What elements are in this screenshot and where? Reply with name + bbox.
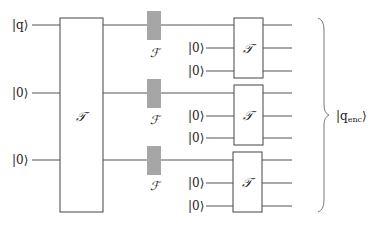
ancilla-label: |0⟩ bbox=[188, 199, 204, 213]
inner-block-3: |0⟩ |0⟩ 𝒯 bbox=[188, 152, 292, 213]
ancilla-label: |0⟩ bbox=[188, 109, 204, 123]
output-label-subscript: enc bbox=[348, 115, 363, 124]
fourier-gate-box bbox=[147, 79, 161, 108]
inner-block-2: |0⟩ |0⟩ 𝒯 bbox=[188, 85, 292, 145]
encoder-gate: 𝒯 bbox=[60, 18, 103, 212]
fourier-gate-1: ℱ bbox=[147, 11, 162, 60]
ancilla-label: |0⟩ bbox=[188, 41, 204, 55]
quantum-circuit-diagram: |q⟩ |0⟩ |0⟩ 𝒯 ℱ ℱ ℱ |0⟩ |0⟩ 𝒯 |0⟩ bbox=[0, 0, 379, 225]
ancilla-label: |0⟩ bbox=[188, 131, 204, 145]
ancilla-label: |0⟩ bbox=[188, 176, 204, 190]
fourier-gate-label: ℱ bbox=[150, 113, 162, 127]
fourier-gate-label: ℱ bbox=[150, 179, 162, 193]
fourier-gate-label: ℱ bbox=[150, 46, 162, 60]
fourier-gate-box bbox=[147, 11, 161, 40]
input-label-0-b: |0⟩ bbox=[12, 153, 28, 167]
inner-block-1: |0⟩ |0⟩ 𝒯 bbox=[188, 18, 292, 78]
curly-brace-icon bbox=[318, 18, 329, 212]
output-label-close: ⟩ bbox=[362, 109, 367, 123]
output-state-label: |qenc⟩ bbox=[336, 109, 367, 124]
fourier-gate-box bbox=[147, 146, 161, 175]
input-label-0-a: |0⟩ bbox=[12, 86, 28, 100]
ancilla-label: |0⟩ bbox=[188, 64, 204, 78]
fourier-gate-3: ℱ bbox=[147, 146, 162, 193]
fourier-gate-2: ℱ bbox=[147, 79, 162, 127]
input-label-q: |q⟩ bbox=[12, 18, 28, 32]
output-label-main: |q bbox=[336, 109, 348, 123]
